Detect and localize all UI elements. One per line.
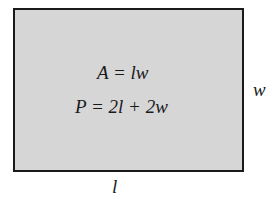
length-label: l xyxy=(112,176,117,198)
width-label: w xyxy=(253,79,266,101)
area-formula: A = lw xyxy=(97,62,149,84)
perimeter-formula: P = 2l + 2w xyxy=(75,96,168,118)
rectangle-shape xyxy=(13,8,244,172)
